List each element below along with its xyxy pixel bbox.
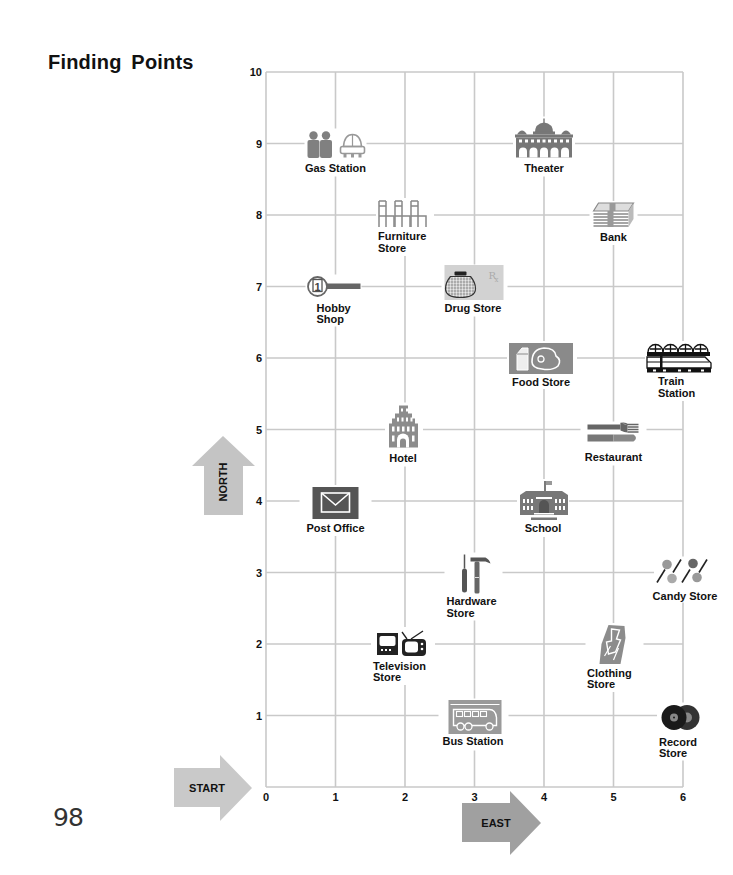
- svg-text:1: 1: [314, 281, 320, 293]
- location-label: Station: [658, 387, 696, 399]
- y-tick: 9: [256, 138, 262, 150]
- location-label: Bus Station: [442, 735, 503, 747]
- location-label: Store: [373, 671, 401, 683]
- location-label: Furniture: [378, 230, 426, 242]
- y-tick: 1: [256, 710, 262, 722]
- y-tick: 10: [250, 66, 262, 78]
- location-food-store: Food Store: [507, 341, 577, 389]
- location-furniture-store: Furniture Store: [376, 198, 434, 256]
- location-label: Theater: [524, 162, 564, 174]
- location-label: Shop: [317, 313, 345, 325]
- location-label: Store: [587, 678, 615, 690]
- x-tick: 1: [332, 791, 338, 803]
- x-tick: 6: [680, 791, 686, 803]
- coordinate-grid-map: 1 2 3 4 5 6 7 8 9 10 0 1 2 3 4 5 6 NORTH…: [0, 0, 733, 875]
- envelope-icon: [313, 487, 359, 519]
- x-tick: 2: [402, 791, 408, 803]
- pharmacy-jar-icon: R x: [445, 265, 504, 300]
- svg-text:x: x: [495, 276, 499, 284]
- location-television-store: Television Store: [371, 627, 435, 685]
- records-icon: [662, 705, 700, 730]
- train-icon: [647, 345, 711, 373]
- location-label: Hardware: [447, 595, 497, 607]
- x-tick: 5: [610, 791, 616, 803]
- location-label: Food Store: [512, 376, 570, 388]
- location-label: Post Office: [306, 522, 364, 534]
- start-label: START: [189, 782, 225, 794]
- groceries-icon: [509, 343, 573, 374]
- location-school: School: [517, 479, 569, 537]
- location-drug-store: R x Drug Store: [442, 265, 508, 317]
- location-post-office: Post Office: [300, 485, 372, 536]
- north-label: NORTH: [217, 462, 229, 501]
- start-arrow: START: [174, 755, 252, 821]
- y-tick: 2: [256, 638, 262, 650]
- location-label: Store: [447, 607, 475, 619]
- location-hardware-store: Hardware Store: [445, 553, 503, 621]
- location-label: Candy Store: [653, 590, 718, 602]
- x-tick: 0: [263, 791, 269, 803]
- location-train-station: Train Station: [645, 341, 711, 401]
- north-arrow: NORTH: [192, 436, 255, 515]
- y-tick: 4: [256, 495, 263, 507]
- x-tick: 3: [471, 791, 477, 803]
- location-label: Store: [378, 242, 406, 254]
- location-theater: Theater: [513, 117, 575, 177]
- y-tick: 8: [256, 209, 262, 221]
- location-label: Restaurant: [585, 451, 643, 463]
- x-tick: 4: [541, 791, 548, 803]
- location-restaurant: Restaurant: [581, 422, 647, 466]
- y-tick: 3: [256, 567, 262, 579]
- location-record-store: Record Store: [657, 703, 703, 761]
- location-bank: Bank: [590, 201, 638, 245]
- bus-icon: [449, 700, 502, 734]
- x-axis-ticks: 0 1 2 3 4 5 6: [263, 791, 686, 803]
- location-label: Gas Station: [305, 162, 366, 174]
- east-label: EAST: [481, 817, 511, 829]
- location-hobby-shop: 1 Hobby Shop: [306, 275, 362, 327]
- location-label: Store: [659, 747, 687, 759]
- location-label: School: [525, 522, 562, 534]
- y-tick: 7: [256, 281, 262, 293]
- location-clothing-store: Clothing Store: [586, 623, 644, 692]
- location-label: Hotel: [389, 452, 417, 464]
- location-label: Bank: [600, 231, 628, 243]
- location-gas-station: Gas Station: [305, 129, 367, 177]
- location-bus-station: Bus Station: [439, 699, 509, 751]
- location-label: Train: [658, 375, 685, 387]
- location-candy-store: Candy Store: [653, 557, 718, 603]
- location-hotel: Hotel: [385, 403, 423, 467]
- y-axis-ticks: 1 2 3 4 5 6 7 8 9 10: [250, 66, 263, 722]
- y-tick: 6: [256, 352, 262, 364]
- location-label: Drug Store: [445, 302, 502, 314]
- y-tick: 5: [256, 424, 262, 436]
